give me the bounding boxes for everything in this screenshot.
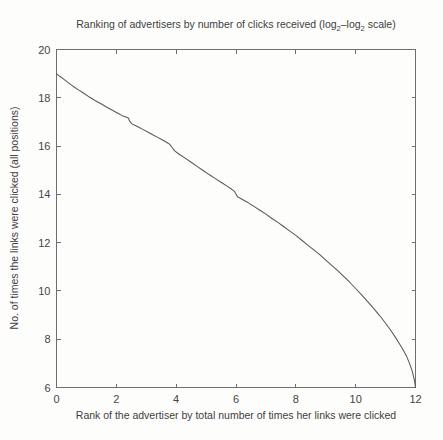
y-axis-ticks [57,50,416,388]
y-tick-label: 14 [38,188,50,200]
plot-frame [57,50,416,388]
y-tick-label: 12 [38,237,50,249]
y-tick-label: 18 [38,92,50,104]
x-tick-label: 0 [53,393,59,405]
x-axis-tick-labels: 024681012 [53,393,421,405]
y-tick-label: 20 [38,44,50,56]
y-tick-label: 10 [38,285,50,297]
y-tick-label: 16 [38,140,50,152]
x-tick-label: 6 [233,393,239,405]
x-tick-label: 12 [409,393,421,405]
chart-title: Ranking of advertisers by number of clic… [76,18,395,33]
x-axis-label: Rank of the advertiser by total number o… [76,409,397,421]
chart-figure: Ranking of advertisers by number of clic… [0,0,443,440]
chart-canvas: Ranking of advertisers by number of clic… [0,0,443,440]
y-tick-label: 8 [44,333,50,345]
x-tick-label: 8 [293,393,299,405]
x-tick-label: 10 [350,393,362,405]
data-series-line [57,74,416,388]
y-tick-label: 6 [44,382,50,394]
y-axis-label: No. of times the links were clicked (all… [8,107,20,330]
x-axis-ticks [57,50,416,388]
y-axis-tick-labels: 68101214161820 [38,44,50,394]
x-tick-label: 4 [173,393,179,405]
x-tick-label: 2 [113,393,119,405]
